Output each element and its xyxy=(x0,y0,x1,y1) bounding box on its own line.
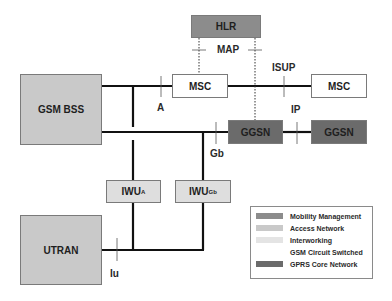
legend-label: GPRS Core Network xyxy=(290,261,357,268)
iwu-a-node: IWUA xyxy=(106,180,161,203)
msc-local-node: MSC xyxy=(172,74,228,98)
iwu-gb-subscript: Gb xyxy=(209,189,217,195)
utran-node: UTRAN xyxy=(20,215,102,285)
gsm-bss-node: GSM BSS xyxy=(20,74,102,145)
msc-remote-label: MSC xyxy=(328,81,350,92)
ggsn-remote-label: GGSN xyxy=(324,127,353,138)
legend-label: GSM Circuit Switched xyxy=(290,249,363,256)
msc-remote-node: MSC xyxy=(311,74,367,98)
ip-interface-label: IP xyxy=(291,105,300,115)
hlr-label: HLR xyxy=(216,21,237,32)
ggsn-remote-node: GGSN xyxy=(311,120,367,144)
gb-interface-label: Gb xyxy=(210,149,224,159)
legend-swatch xyxy=(256,225,283,231)
iu-interface-label: Iu xyxy=(110,269,119,279)
legend-swatch xyxy=(256,237,283,243)
msc-local-label: MSC xyxy=(189,81,211,92)
iwu-gb-node: IWUGb xyxy=(175,180,231,203)
ggsn-local-node: GGSN xyxy=(228,120,283,144)
legend-label: Interworking xyxy=(290,237,332,244)
iwu-gb-label: IWU xyxy=(189,186,208,197)
utran-label: UTRAN xyxy=(44,245,79,256)
gsm-bss-label: GSM BSS xyxy=(38,104,84,115)
legend-item-access-network: Access Network xyxy=(256,223,344,233)
legend-item-interworking: Interworking xyxy=(256,235,332,245)
iwu-a-subscript: A xyxy=(141,189,145,195)
legend-swatch xyxy=(256,261,283,267)
ggsn-local-label: GGSN xyxy=(241,127,270,138)
legend-item-gsm-circuit-switched: GSM Circuit Switched xyxy=(256,247,363,257)
legend-swatch xyxy=(256,249,283,255)
a-interface-label: A xyxy=(157,103,164,113)
isup-interface-label: ISUP xyxy=(272,63,295,73)
map-interface-label: MAP xyxy=(217,45,239,55)
iwu-a-label: IWU xyxy=(122,186,141,197)
legend-label: Mobility Management xyxy=(290,213,361,220)
network-diagram: HLR MSC MSC GSM BSS GGSN GGSN IWUA IWUGb… xyxy=(0,0,392,301)
legend-label: Access Network xyxy=(290,225,344,232)
legend-swatch xyxy=(256,213,283,219)
legend: Mobility Management Access Network Inter… xyxy=(250,206,373,279)
legend-item-mobility-management: Mobility Management xyxy=(256,211,361,221)
legend-item-gprs-core-network: GPRS Core Network xyxy=(256,259,357,269)
hlr-node: HLR xyxy=(191,15,261,38)
